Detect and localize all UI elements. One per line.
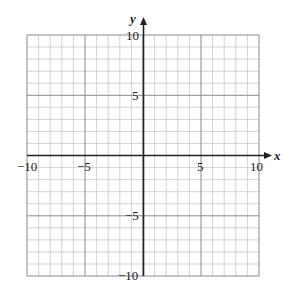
y-tick-10: 10 [126, 28, 139, 43]
y-tick-neg10: −10 [118, 268, 138, 283]
x-arrow-icon [264, 152, 272, 159]
x-tick-5: 5 [197, 159, 204, 174]
y-tick-neg5: −5 [125, 208, 139, 223]
x-axis [27, 152, 272, 159]
x-tick-neg10: −10 [17, 159, 37, 174]
x-tick-neg5: −5 [77, 159, 91, 174]
y-axis-label: y [128, 11, 136, 26]
x-axis-label: x [273, 148, 281, 163]
y-tick-5: 5 [132, 88, 139, 103]
y-arrow-icon [140, 17, 147, 25]
coordinate-grid: x y −10 −5 5 10 10 5 −5 −10 [0, 0, 293, 298]
x-tick-10: 10 [250, 159, 263, 174]
y-axis [140, 17, 147, 276]
